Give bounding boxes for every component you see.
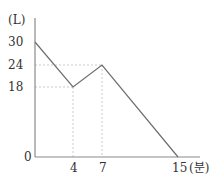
y-tick-18: 18 — [8, 80, 23, 94]
x-unit-label: (분) — [189, 161, 209, 175]
y-tick-24: 24 — [8, 58, 24, 72]
line-chart: (L) 30 24 18 0 4 7 15 (분) — [0, 0, 224, 182]
y-tick-30: 30 — [8, 35, 23, 49]
y-unit-label: (L) — [8, 13, 25, 27]
origin-label: 0 — [24, 150, 32, 164]
x-tick-7: 7 — [99, 161, 107, 175]
data-line — [35, 42, 178, 157]
x-tick-15: 15 — [172, 161, 187, 175]
x-tick-4: 4 — [70, 161, 78, 175]
